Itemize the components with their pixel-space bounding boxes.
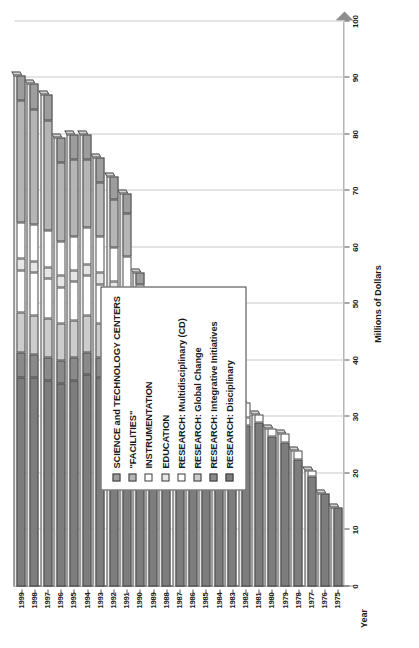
bar-segment[interactable] — [16, 222, 25, 259]
stacked-bar[interactable] — [320, 493, 329, 586]
bar-segment[interactable] — [56, 360, 65, 383]
bar-segment[interactable] — [16, 377, 25, 586]
bar-row[interactable] — [320, 21, 329, 586]
bar-row[interactable] — [56, 21, 65, 586]
bar-segment[interactable] — [69, 134, 78, 159]
legend-item[interactable]: EDUCATION — [157, 296, 173, 481]
bar-segment[interactable] — [109, 176, 118, 199]
bar-segment[interactable] — [254, 414, 263, 422]
bar-segment[interactable] — [43, 120, 52, 230]
legend-item[interactable]: RESEARCH: Global Change — [189, 296, 205, 481]
bar-segment[interactable] — [82, 134, 91, 159]
bar-segment[interactable] — [16, 75, 25, 100]
bar-segment[interactable] — [56, 323, 65, 360]
stacked-bar[interactable] — [16, 75, 25, 586]
bar-segment[interactable] — [95, 272, 104, 283]
stacked-bar[interactable] — [333, 507, 342, 586]
bar-segment[interactable] — [95, 236, 104, 273]
bar-segment[interactable] — [29, 83, 38, 108]
bar-segment[interactable] — [95, 157, 104, 182]
bar-row[interactable] — [29, 21, 38, 586]
bar-segment[interactable] — [109, 199, 118, 247]
stacked-bar[interactable] — [280, 433, 289, 586]
legend-item[interactable]: SCIENCE and TECHNOLOGY CENTERS — [108, 296, 124, 481]
bar-segment[interactable] — [135, 272, 144, 283]
bar-segment[interactable] — [69, 159, 78, 235]
bar-segment[interactable] — [109, 247, 118, 281]
bar-segment[interactable] — [56, 162, 65, 241]
legend-item[interactable]: "FACILITIES" — [124, 296, 140, 481]
bar-row[interactable] — [43, 21, 52, 586]
bar-segment[interactable] — [43, 278, 52, 318]
bar-row[interactable] — [82, 21, 91, 586]
bar-row[interactable] — [254, 21, 263, 586]
bar-segment[interactable] — [16, 100, 25, 221]
bar-segment[interactable] — [293, 459, 302, 586]
legend-item[interactable]: RESEARCH: Disciplinary — [221, 296, 237, 481]
bar-segment[interactable] — [69, 380, 78, 586]
bar-segment[interactable] — [280, 442, 289, 586]
stacked-bar[interactable] — [254, 414, 263, 586]
bar-segment[interactable] — [267, 428, 276, 436]
bar-segment[interactable] — [267, 436, 276, 586]
bar-segment[interactable] — [69, 320, 78, 357]
bar-segment[interactable] — [95, 182, 104, 236]
bar-segment[interactable] — [43, 230, 52, 267]
bar-segment[interactable] — [122, 213, 131, 255]
bar-segment[interactable] — [82, 227, 91, 264]
bar-row[interactable] — [293, 21, 302, 586]
stacked-bar[interactable] — [267, 428, 276, 586]
bar-segment[interactable] — [122, 256, 131, 290]
bar-segment[interactable] — [16, 312, 25, 352]
bar-segment[interactable] — [43, 318, 52, 358]
bar-segment[interactable] — [82, 159, 91, 227]
bar-segment[interactable] — [43, 357, 52, 380]
bar-row[interactable] — [69, 21, 78, 586]
bar-segment[interactable] — [56, 383, 65, 586]
bar-segment[interactable] — [56, 287, 65, 324]
bar-segment[interactable] — [293, 450, 302, 458]
stacked-bar[interactable] — [43, 94, 52, 586]
bar-segment[interactable] — [69, 357, 78, 380]
bar-segment[interactable] — [82, 352, 91, 375]
bar-segment[interactable] — [29, 261, 38, 272]
stacked-bar[interactable] — [29, 83, 38, 586]
bar-segment[interactable] — [320, 493, 329, 586]
bar-segment[interactable] — [29, 354, 38, 377]
bar-segment[interactable] — [29, 377, 38, 586]
bar-segment[interactable] — [69, 236, 78, 270]
bar-segment[interactable] — [56, 275, 65, 286]
bar-segment[interactable] — [29, 224, 38, 261]
bar-segment[interactable] — [43, 94, 52, 119]
legend-item[interactable]: RESEARCH: Multidisciplinary (CD) — [173, 296, 189, 481]
bar-segment[interactable] — [29, 109, 38, 225]
bar-segment[interactable] — [16, 352, 25, 377]
bar-segment[interactable] — [307, 470, 316, 476]
legend-item[interactable]: INSTRUMENTATION — [140, 296, 156, 481]
stacked-bar[interactable] — [293, 450, 302, 586]
bar-segment[interactable] — [29, 315, 38, 355]
stacked-bar[interactable] — [56, 137, 65, 586]
bar-segment[interactable] — [307, 476, 316, 586]
stacked-bar[interactable] — [82, 134, 91, 586]
bar-row[interactable] — [280, 21, 289, 586]
stacked-bar[interactable] — [69, 134, 78, 586]
bar-row[interactable] — [333, 21, 342, 586]
bar-segment[interactable] — [29, 272, 38, 314]
bar-segment[interactable] — [43, 380, 52, 586]
bar-segment[interactable] — [69, 281, 78, 321]
bar-segment[interactable] — [16, 258, 25, 269]
bar-segment[interactable] — [254, 422, 263, 586]
bar-segment[interactable] — [122, 193, 131, 213]
bar-segment[interactable] — [280, 433, 289, 441]
bar-segment[interactable] — [82, 264, 91, 275]
bar-segment[interactable] — [333, 507, 342, 586]
bar-segment[interactable] — [56, 241, 65, 275]
bar-segment[interactable] — [82, 374, 91, 586]
bar-row[interactable] — [307, 21, 316, 586]
stacked-bar[interactable] — [307, 470, 316, 586]
bar-segment[interactable] — [82, 275, 91, 315]
bar-segment[interactable] — [82, 315, 91, 352]
legend-item[interactable]: RESEARCH: Integrative Initiatives — [205, 296, 221, 481]
bar-segment[interactable] — [56, 137, 65, 162]
